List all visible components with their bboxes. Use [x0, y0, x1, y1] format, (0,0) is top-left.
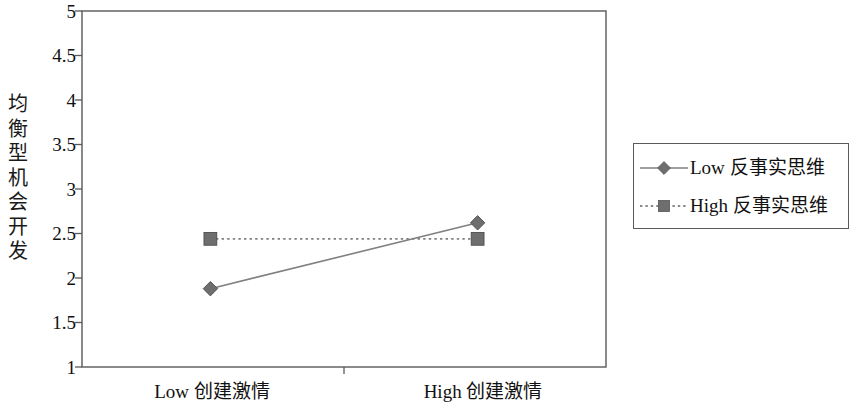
legend-item-high: High 反事实思维	[634, 188, 848, 224]
legend-item-low: Low 反事实思维	[634, 150, 848, 186]
legend-key-diamond-icon	[638, 158, 690, 178]
data-point-marker-square	[471, 232, 484, 245]
plot-frame	[82, 11, 606, 367]
chart-figure: 均 衡 型 机 会 开 发 5 4.5 4 3.5 3 2.5 2 1.5 1 …	[0, 0, 852, 412]
legend-key-square-icon	[638, 196, 690, 216]
x-tick-label: Low 创建激情	[132, 381, 292, 403]
data-point-marker-square	[204, 232, 217, 245]
x-tick-label: High 创建激情	[398, 381, 568, 403]
legend-label-low: Low 反事实思维	[690, 158, 825, 178]
legend: Low 反事实思维 High 反事实思维	[633, 143, 849, 229]
legend-label-high: High 反事实思维	[690, 196, 828, 216]
